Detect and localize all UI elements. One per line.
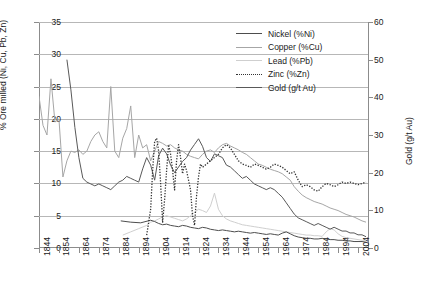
legend-swatch bbox=[236, 33, 262, 34]
legend-swatch bbox=[236, 74, 262, 75]
legend-item[interactable]: Gold (g/t Au) bbox=[236, 81, 322, 95]
legend-label: Gold (g/t Au) bbox=[268, 84, 316, 93]
legend-item[interactable]: Nickel (%Ni) bbox=[236, 27, 322, 41]
legend-label: Nickel (%Ni) bbox=[268, 30, 315, 39]
series-line bbox=[39, 79, 366, 222]
legend-label: Zinc (%Zn) bbox=[268, 70, 310, 79]
legend-swatch bbox=[236, 47, 262, 48]
legend-item[interactable]: Copper (%Cu) bbox=[236, 41, 322, 55]
series-line bbox=[123, 193, 366, 240]
legend-swatch bbox=[236, 87, 262, 88]
series-line bbox=[147, 138, 366, 235]
legend-label: Lead (%Pb) bbox=[268, 57, 313, 66]
chart-legend: Nickel (%Ni)Copper (%Cu)Lead (%Pb)Zinc (… bbox=[236, 27, 322, 95]
ore-grade-chart: % Ore milled (Ni, Cu, Pb, Zn) Gold (g/t … bbox=[0, 0, 433, 300]
legend-item[interactable]: Zinc (%Zn) bbox=[236, 68, 322, 82]
series-lines bbox=[0, 0, 433, 300]
legend-swatch bbox=[236, 60, 262, 61]
legend-label: Copper (%Cu) bbox=[268, 43, 322, 52]
legend-item[interactable]: Lead (%Pb) bbox=[236, 54, 322, 68]
series-line bbox=[121, 220, 366, 242]
